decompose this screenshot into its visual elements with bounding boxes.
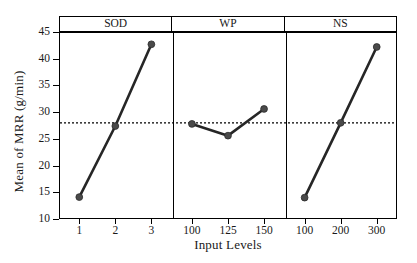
x-tick-label: 200: [321, 225, 361, 237]
y-tick-mark: [53, 192, 59, 193]
y-tick-label: 40: [10, 53, 50, 65]
y-tick-label: 35: [10, 80, 50, 92]
x-tick-label: 2: [95, 225, 135, 237]
y-tick-label: 15: [10, 187, 50, 199]
y-tick-mark: [53, 32, 59, 33]
panel-header-sod: SOD: [60, 17, 172, 31]
x-tick-label: 100: [172, 225, 212, 237]
x-tick-label: 150: [244, 225, 284, 237]
y-tick-mark: [53, 85, 59, 86]
panel-divider-2: [286, 33, 287, 218]
x-tick-label: 100: [285, 225, 325, 237]
panel-header-strip: SOD WP NS: [59, 16, 397, 32]
y-tick-mark: [53, 139, 59, 140]
y-tick-mark: [53, 59, 59, 60]
y-tick-label: 10: [10, 213, 50, 225]
panel-divider-1: [173, 33, 174, 218]
y-tick-mark: [53, 166, 59, 167]
y-tick-label: 45: [10, 26, 50, 38]
panel-header-wp: WP: [172, 17, 284, 31]
x-tick-label: 125: [208, 225, 248, 237]
y-tick-label: 20: [10, 160, 50, 172]
plot-frame: [59, 32, 397, 219]
y-tick-mark: [53, 112, 59, 113]
y-tick-label: 30: [10, 106, 50, 118]
x-tick-label: 3: [131, 225, 171, 237]
x-axis-title: Input Levels: [59, 237, 397, 253]
x-tick-label: 1: [59, 225, 99, 237]
y-tick-mark: [53, 219, 59, 220]
y-tick-label: 25: [10, 133, 50, 145]
main-effects-plot: Mean of MRR (g/min) SOD WP NS 1015202530…: [0, 0, 417, 263]
x-tick-label: 300: [357, 225, 397, 237]
panel-header-ns: NS: [285, 17, 396, 31]
